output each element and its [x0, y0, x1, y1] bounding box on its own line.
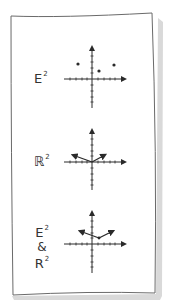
point — [97, 69, 100, 72]
diagram-canvas — [0, 0, 170, 307]
label-base: ℝ — [34, 154, 44, 169]
label-ampersand: & — [34, 240, 50, 254]
point — [76, 62, 79, 65]
label-sup: 2 — [45, 255, 49, 263]
paper-sheet — [11, 13, 156, 295]
label-combined: E2 & R2 — [34, 223, 50, 272]
label-vector-space: ℝ2 — [34, 153, 50, 168]
label-base: E — [34, 71, 42, 86]
label-sup: 2 — [43, 70, 47, 78]
label-euclidean: E2 — [34, 70, 48, 85]
label-sup: 2 — [45, 153, 49, 161]
label-base: R — [35, 257, 44, 272]
label-base: E — [35, 225, 43, 240]
diagram-card: E2 ℝ2 E2 & R2 — [0, 0, 170, 307]
point — [112, 63, 115, 66]
label-sup: 2 — [44, 224, 48, 232]
